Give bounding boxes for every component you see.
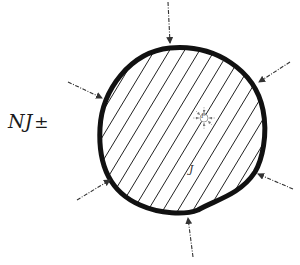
arrow-upper-right-icon — [259, 62, 290, 82]
arrow-upper-left-icon — [68, 82, 102, 98]
arrow-lower-left-icon — [77, 180, 110, 200]
plus-minus-symbol: ± — [34, 112, 48, 132]
hatch-pattern — [0, 0, 300, 265]
outer-label: NJ± — [8, 110, 49, 132]
region-boundary — [100, 48, 265, 213]
region-label: J — [189, 163, 193, 176]
point-label: P — [201, 112, 206, 120]
arrow-top-icon — [168, 2, 170, 43]
arrow-bottom-icon — [188, 218, 193, 257]
outer-label-text: NJ — [8, 110, 32, 132]
arrow-lower-right-icon — [258, 174, 293, 189]
region-diagram — [0, 0, 300, 265]
